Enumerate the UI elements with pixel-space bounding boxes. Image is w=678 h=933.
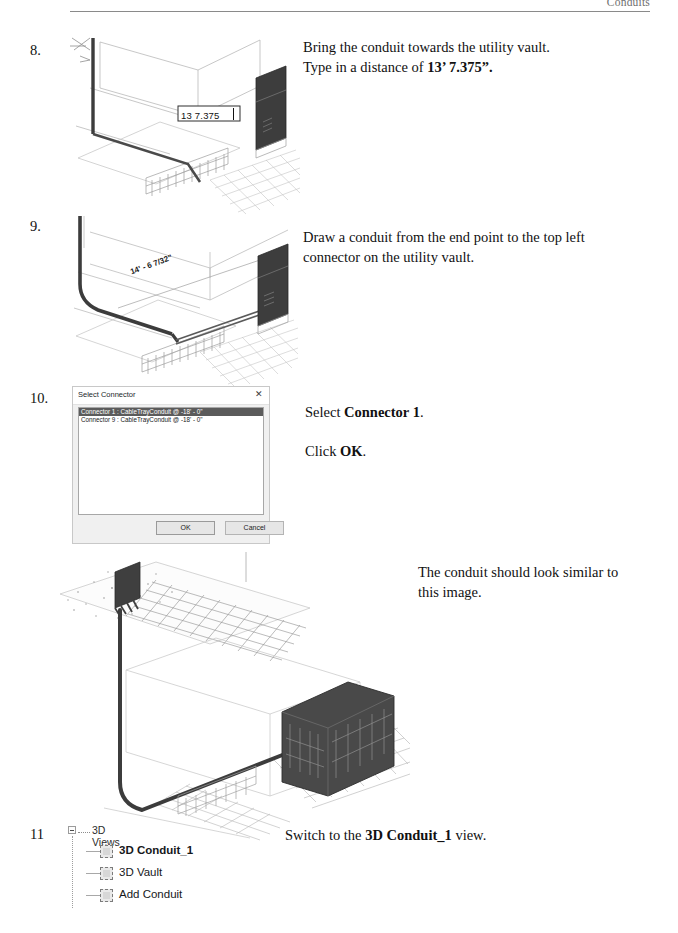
figure-step-8 xyxy=(60,30,300,215)
step-number-11: 11 xyxy=(30,826,44,843)
step-11-prefix: Switch to the xyxy=(285,827,365,843)
dimension-input-field[interactable]: 13 7.375 xyxy=(181,110,220,121)
step-8-line1-text: Bring the conduit towards the utility va… xyxy=(303,39,550,55)
step-9-instruction: Draw a conduit from the end point to the… xyxy=(303,228,643,267)
tree-lead-line xyxy=(78,832,90,833)
step-8-instruction: Bring the conduit towards the utility va… xyxy=(303,38,643,77)
dialog-title-bar: Select Connector ✕ xyxy=(73,387,269,405)
step-10-line2-suffix: . xyxy=(363,443,367,459)
step-10-instruction: Select Connector 1. Click OK. xyxy=(305,403,605,461)
step-11-instruction: Switch to the 3D Conduit_1 view. xyxy=(285,826,615,846)
view-3d-icon xyxy=(100,889,113,902)
collapse-minus-icon[interactable] xyxy=(68,826,76,834)
list-item[interactable]: Connector 1 : CableTrayConduit @ -18' - … xyxy=(79,408,263,416)
step-8-line2-text: Type in a distance of xyxy=(303,59,427,75)
project-browser-tree[interactable]: 3D Views 3D Conduit_1 3D Vault Add Condu… xyxy=(68,824,283,922)
select-connector-dialog[interactable]: Select Connector ✕ Connector 1 : CableTr… xyxy=(72,386,270,544)
result-note: The conduit should look similar to this … xyxy=(418,563,648,602)
tree-branch-line xyxy=(86,873,100,874)
tree-item-label: 3D Vault xyxy=(119,866,162,878)
list-item[interactable]: Connector 9 : CableTrayConduit @ -18' - … xyxy=(79,416,263,424)
step-number-9: 9. xyxy=(30,218,41,235)
step-9-line2-text: connector on the utility vault. xyxy=(303,249,474,265)
dialog-title: Select Connector xyxy=(78,390,136,399)
step-8-distance-value: 13’ 7.375”. xyxy=(427,59,492,75)
figure-result-3d xyxy=(60,552,410,842)
tree-branch-line xyxy=(86,851,100,852)
text-cursor xyxy=(233,108,234,120)
connector-list[interactable]: Connector 1 : CableTrayConduit @ -18' - … xyxy=(78,407,264,515)
step-number-8: 8. xyxy=(30,42,41,59)
header-title: Conduits xyxy=(607,0,650,8)
step-10-connector-name: Connector 1 xyxy=(344,404,420,420)
result-note-line2: this image. xyxy=(418,584,482,600)
header-rule xyxy=(70,11,650,12)
step-10-line2-prefix: Click xyxy=(305,443,340,459)
view-3d-icon xyxy=(100,845,113,858)
dialog-button-row: OK Cancel xyxy=(73,521,269,537)
step-10-line1-suffix: . xyxy=(420,404,424,420)
ok-button[interactable]: OK xyxy=(156,521,215,535)
figure-step-9 xyxy=(60,212,300,390)
result-note-line1: The conduit should look similar to xyxy=(418,564,618,580)
tree-item-label: Add Conduit xyxy=(119,888,182,900)
step-11-suffix: view. xyxy=(452,827,487,843)
step-number-10: 10. xyxy=(30,390,48,407)
view-3d-icon xyxy=(100,867,113,880)
tree-vertical-rail xyxy=(72,836,73,908)
step-11-view-name: 3D Conduit_1 xyxy=(365,827,452,843)
cancel-button[interactable]: Cancel xyxy=(225,521,284,535)
close-icon[interactable]: ✕ xyxy=(255,389,263,400)
step-10-line1-prefix: Select xyxy=(305,404,344,420)
page-header: Conduits xyxy=(0,0,678,22)
step-10-ok-word: OK xyxy=(340,443,363,459)
step-9-line1-text: Draw a conduit from the end point to the… xyxy=(303,229,585,245)
tree-item-label: 3D Conduit_1 xyxy=(119,844,193,856)
tree-branch-line xyxy=(86,895,100,896)
